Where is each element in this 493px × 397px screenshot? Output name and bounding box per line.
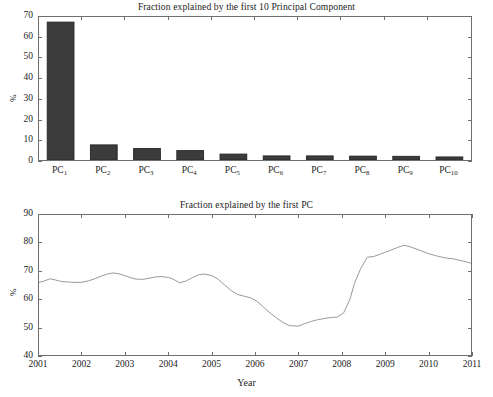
line-x-tick-2007 <box>298 352 299 356</box>
bar-y-tick-30 <box>38 99 42 100</box>
bar-y-tick-0 <box>38 161 42 162</box>
line-x-tick-2008 <box>342 352 343 356</box>
line-x-tick-label-2006: 2006 <box>233 360 277 370</box>
bar-chart-bars <box>39 17 471 160</box>
line-x-tick-2002 <box>81 352 82 356</box>
line-y-tick-right-40 <box>468 356 472 357</box>
line-x-tick-label-2008: 2008 <box>320 360 364 370</box>
bar-y-tick-20 <box>38 120 42 121</box>
line-x-tick-2009 <box>385 352 386 356</box>
bar-y-tick-right-0 <box>468 161 472 162</box>
bar-chart-panel: Fraction explained by the first 10 Princ… <box>0 0 493 196</box>
bar-y-tick-right-10 <box>468 140 472 141</box>
bar-x-tick-label-PC_4: PC4 <box>165 166 213 176</box>
line-x-tick-label-2005: 2005 <box>190 360 234 370</box>
bar-y-tick-label-20: 20 <box>0 115 33 125</box>
line-y-tick-right-80 <box>468 242 472 243</box>
bar-y-tick-label-10: 10 <box>0 135 33 145</box>
bar-x-tick-top-9 <box>427 16 428 20</box>
line-x-tick-top-2011 <box>472 214 473 218</box>
bar-x-tick-top-6 <box>297 16 298 20</box>
bar-x-tick-top-5 <box>254 16 255 20</box>
bar-PC_9 <box>393 156 420 160</box>
line-y-tick-70 <box>38 271 42 272</box>
line-x-tick-top-2004 <box>168 214 169 218</box>
bar-chart-plot-area <box>38 16 472 161</box>
bar-PC_10 <box>436 157 463 160</box>
line-y-tick-label-60: 60 <box>0 294 33 304</box>
line-y-tick-right-70 <box>468 271 472 272</box>
bar-y-tick-60 <box>38 37 42 38</box>
bar-y-tick-70 <box>38 16 42 17</box>
line-x-tick-label-2004: 2004 <box>146 360 190 370</box>
line-x-tick-top-2003 <box>125 214 126 218</box>
bar-PC_5 <box>220 154 247 160</box>
line-x-tick-2010 <box>429 352 430 356</box>
bar-x-tick-top-1 <box>81 16 82 20</box>
bar-PC_1 <box>47 22 74 160</box>
line-x-tick-2006 <box>255 352 256 356</box>
line-x-tick-2005 <box>212 352 213 356</box>
line-x-tick-top-2010 <box>429 214 430 218</box>
bar-x-tick-label-PC_1: PC1 <box>36 166 84 176</box>
bar-PC_7 <box>306 156 333 160</box>
bar-x-tick-label-PC_10: PC10 <box>424 166 472 176</box>
bar-y-tick-label-0: 0 <box>0 156 33 166</box>
bar-x-tick-label-PC_9: PC9 <box>381 166 429 176</box>
line-y-tick-40 <box>38 356 42 357</box>
bar-x-tick-top-7 <box>340 16 341 20</box>
line-y-tick-80 <box>38 242 42 243</box>
line-x-tick-label-2010: 2010 <box>407 360 451 370</box>
line-x-tick-top-2009 <box>385 214 386 218</box>
bar-y-tick-label-60: 60 <box>0 32 33 42</box>
figure-root: Fraction explained by the first 10 Princ… <box>0 0 493 397</box>
bar-PC_8 <box>350 156 377 160</box>
bar-y-tick-label-40: 40 <box>0 73 33 83</box>
bar-x-tick-top-2 <box>124 16 125 20</box>
line-x-tick-2001 <box>38 352 39 356</box>
bar-y-tick-50 <box>38 57 42 58</box>
line-chart-x-axis-label: Year <box>0 377 493 388</box>
bar-PC_2 <box>90 145 117 160</box>
line-y-tick-label-90: 90 <box>0 209 33 219</box>
line-x-tick-label-2009: 2009 <box>363 360 407 370</box>
line-x-tick-top-2008 <box>342 214 343 218</box>
line-x-tick-2003 <box>125 352 126 356</box>
line-x-tick-top-2005 <box>212 214 213 218</box>
bar-x-tick-top-3 <box>168 16 169 20</box>
bar-y-tick-label-50: 50 <box>0 52 33 62</box>
line-x-tick-top-2002 <box>81 214 82 218</box>
bar-x-tick-label-PC_8: PC8 <box>338 166 386 176</box>
bar-x-tick-label-PC_7: PC7 <box>295 166 343 176</box>
line-chart-plot-area <box>38 214 472 356</box>
line-x-tick-2011 <box>472 352 473 356</box>
bar-y-tick-right-30 <box>468 99 472 100</box>
line-chart-panel: Fraction explained by the first PC % 405… <box>0 196 493 397</box>
bar-y-tick-label-30: 30 <box>0 94 33 104</box>
line-y-tick-50 <box>38 328 42 329</box>
bar-y-tick-40 <box>38 78 42 79</box>
bar-chart-title: Fraction explained by the first 10 Princ… <box>0 1 493 12</box>
bar-y-tick-right-70 <box>468 16 472 17</box>
bar-x-tick-label-PC_6: PC6 <box>252 166 300 176</box>
bar-y-tick-label-70: 70 <box>0 11 33 21</box>
bar-y-tick-right-20 <box>468 120 472 121</box>
line-x-tick-top-2001 <box>38 214 39 218</box>
line-y-tick-label-70: 70 <box>0 266 33 276</box>
bar-y-tick-right-40 <box>468 78 472 79</box>
bar-PC_4 <box>177 151 204 160</box>
bar-x-tick-label-PC_3: PC3 <box>122 166 170 176</box>
line-y-tick-label-80: 80 <box>0 237 33 247</box>
line-y-tick-right-50 <box>468 328 472 329</box>
line-y-tick-60 <box>38 299 42 300</box>
bar-x-tick-top-4 <box>211 16 212 20</box>
line-x-tick-top-2006 <box>255 214 256 218</box>
bar-x-tick-label-PC_5: PC5 <box>208 166 256 176</box>
line-chart-title: Fraction explained by the first PC <box>0 199 493 210</box>
line-x-tick-top-2007 <box>298 214 299 218</box>
bar-y-tick-right-60 <box>468 37 472 38</box>
line-series-first-pc <box>39 245 471 326</box>
bar-x-tick-top-8 <box>384 16 385 20</box>
line-y-tick-right-60 <box>468 299 472 300</box>
bar-y-tick-right-50 <box>468 57 472 58</box>
